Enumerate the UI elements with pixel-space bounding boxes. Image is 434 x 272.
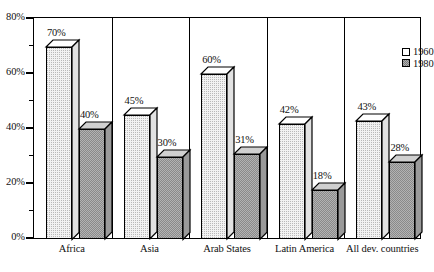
bar-value-label: 30%	[158, 137, 177, 148]
group-separator	[189, 18, 190, 238]
bar-front-face	[356, 121, 382, 239]
x-axis-label-arab-states: Arab States	[188, 243, 266, 254]
bar-value-label: 70%	[47, 27, 66, 38]
bar-side-face	[382, 114, 389, 239]
bar-front-face	[389, 162, 415, 239]
x-axis-label-latin-america: Latin America	[266, 243, 344, 254]
bar-front-face	[234, 154, 260, 239]
bar-front-face	[79, 129, 105, 239]
bar-top-face	[157, 150, 190, 157]
bar-value-label: 31%	[235, 134, 254, 145]
y-axis-tick-label: 60%	[0, 66, 25, 77]
bar-top-face	[356, 114, 389, 121]
bar-1980-asia	[157, 157, 183, 240]
bar-front-face	[312, 190, 338, 240]
y-axis-tick-label: 0%	[0, 231, 25, 242]
group-separator	[267, 18, 268, 238]
x-axis-label-all-dev-countries: All dev. countries	[343, 243, 421, 254]
y-axis-tick-label: 40%	[0, 121, 25, 132]
bar-top-face	[79, 122, 112, 129]
legend-label: 1960	[413, 46, 434, 58]
legend-item-1980: 1980	[402, 58, 434, 70]
bar-side-face	[415, 155, 422, 239]
bar-1980-arab-states	[234, 154, 260, 239]
bar-front-face	[46, 47, 72, 240]
bar-top-face	[201, 67, 234, 74]
bar-1980-all-dev-countries	[389, 162, 415, 239]
bar-value-label: 43%	[357, 101, 376, 112]
bar-1960-asia	[124, 115, 150, 239]
bar-side-face	[227, 67, 234, 239]
bar-front-face	[124, 115, 150, 239]
y-axis-tick-label: 20%	[0, 176, 25, 187]
bar-value-label: 60%	[202, 54, 221, 65]
y-axis-tick-label: 80%	[0, 11, 25, 22]
bar-1980-latin-america	[312, 190, 338, 240]
bar-side-face	[305, 117, 312, 240]
bar-1960-arab-states	[201, 74, 227, 239]
chart-legend: 19601980	[402, 46, 434, 69]
bar-value-label: 40%	[80, 109, 99, 120]
x-axis-label-africa: Africa	[33, 243, 111, 254]
bar-1980-africa	[79, 129, 105, 239]
group-separator	[344, 18, 345, 238]
x-axis-label-asia: Asia	[111, 243, 189, 254]
bar-front-face	[157, 157, 183, 240]
bar-value-label: 45%	[125, 95, 144, 106]
bar-side-face	[150, 108, 157, 239]
legend-item-1960: 1960	[402, 46, 434, 58]
bar-value-label: 18%	[313, 170, 332, 181]
bar-side-face	[72, 40, 79, 240]
bar-top-face	[46, 40, 79, 47]
bar-value-label: 28%	[390, 142, 409, 153]
legend-label: 1980	[413, 58, 434, 70]
bar-1960-latin-america	[279, 124, 305, 240]
group-separator	[112, 18, 113, 238]
bar-top-face	[279, 117, 312, 124]
bar-top-face	[389, 155, 422, 162]
bar-top-face	[234, 147, 267, 154]
empty-square-icon	[402, 48, 410, 56]
hatched-square-icon	[402, 59, 410, 67]
bar-1960-africa	[46, 47, 72, 240]
bar-top-face	[312, 183, 345, 190]
bar-top-face	[124, 108, 157, 115]
bar-front-face	[201, 74, 227, 239]
bar-1960-all-dev-countries	[356, 121, 382, 239]
plot-area: 70%40%45%30%60%31%42%18%43%28% 19601980	[33, 17, 421, 239]
bar-value-label: 42%	[280, 104, 299, 115]
bar-front-face	[279, 124, 305, 240]
